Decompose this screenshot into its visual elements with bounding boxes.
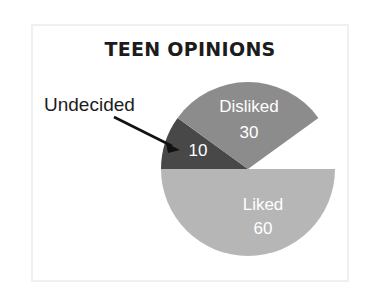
slice-value-liked: 60 [254, 219, 273, 238]
slice-label-liked: Liked [243, 195, 284, 214]
slice-value-undecided: 10 [189, 141, 208, 160]
slice-label-disliked: Disliked [219, 97, 279, 116]
pie-chart-figure: TEEN OPINIONS Disliked 30 Liked 60 10 Un… [0, 0, 376, 306]
pie-chart-svg: Disliked 30 Liked 60 10 Undecided [0, 0, 376, 306]
undecided-callout-label: Undecided [44, 94, 135, 115]
undecided-callout-arrow-line [114, 117, 172, 146]
slice-value-disliked: 30 [240, 123, 259, 142]
